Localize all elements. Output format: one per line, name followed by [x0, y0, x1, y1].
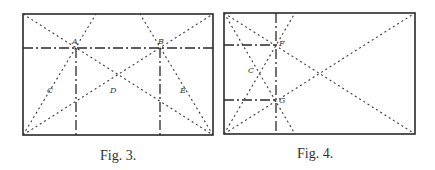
- fig4-caption: Fig. 4.: [297, 146, 333, 161]
- figure-4: F G C Fig. 4.: [224, 13, 415, 161]
- fig3-line-br-through-b: [140, 14, 213, 135]
- fig4-label-f: F: [278, 39, 285, 48]
- figure-3: A B C D E Fig. 3.: [23, 14, 213, 163]
- fig3-label-c: C: [47, 86, 53, 95]
- fig3-line-bl-through-a: [23, 14, 96, 135]
- diagram-canvas: A B C D E Fig. 3. F G C Fig. 4.: [0, 0, 435, 170]
- fig3-label-d: D: [109, 86, 117, 95]
- fig4-label-g: G: [279, 96, 286, 105]
- fig3-caption: Fig. 3.: [100, 148, 136, 163]
- fig3-label-a: A: [71, 37, 78, 46]
- fig3-label-e: E: [179, 86, 186, 95]
- fig3-label-b: B: [157, 37, 164, 46]
- fig4-label-c: C: [248, 66, 254, 75]
